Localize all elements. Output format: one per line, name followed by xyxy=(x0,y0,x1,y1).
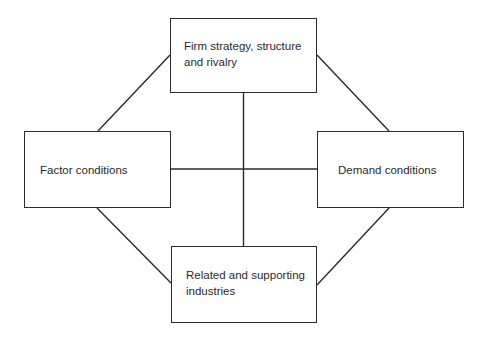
node-label: Related and supporting industries xyxy=(186,267,311,299)
node-firm-strategy: Firm strategy, structure and rivalry xyxy=(170,18,317,93)
node-factor-conditions: Factor conditions xyxy=(24,131,171,208)
porter-diamond-diagram: Firm strategy, structure and rivalry Fac… xyxy=(0,0,486,340)
node-label: Firm strategy, structure and rivalry xyxy=(184,38,309,70)
node-label: Demand conditions xyxy=(338,162,436,178)
edge-bottom-right xyxy=(317,208,389,285)
edge-top-left xyxy=(98,55,170,131)
edge-bottom-left xyxy=(97,208,171,283)
edge-top-right xyxy=(317,55,389,131)
node-demand-conditions: Demand conditions xyxy=(317,131,464,208)
node-label: Factor conditions xyxy=(40,162,128,178)
node-related-supporting-industries: Related and supporting industries xyxy=(171,246,317,323)
